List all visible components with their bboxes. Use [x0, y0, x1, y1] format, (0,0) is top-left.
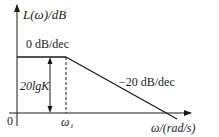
corner-frequency-label: ω₁ [61, 116, 74, 128]
origin-label: 0 [7, 115, 13, 127]
gain-label: 20lgK [20, 80, 49, 92]
low-slope-label: 0 dB/dec [26, 38, 69, 50]
gain-arrow-up-icon [48, 57, 53, 64]
high-slope-label: −20 dB/dec [119, 76, 175, 88]
y-axis-label: L(ω)/dB [23, 8, 66, 21]
gain-arrow-down-icon [48, 106, 53, 113]
x-axis-label: ω/(rad/s) [151, 122, 195, 134]
